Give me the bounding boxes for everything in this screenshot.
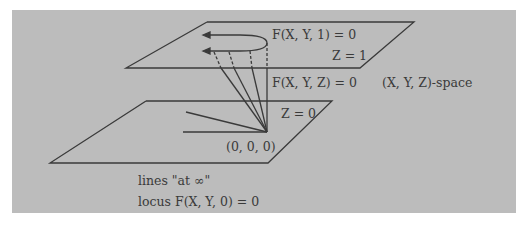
label-cone-surface: F(X, Y, Z) = 0	[272, 77, 357, 90]
label-lower-plane: Z = 0	[281, 108, 316, 121]
label-upper-curve: F(X, Y, 1) = 0	[272, 29, 356, 42]
dashed-rays	[214, 43, 267, 68]
curve-f-xy1	[208, 35, 267, 51]
cone-rays	[183, 68, 267, 132]
label-lines-at-infinity: lines "at ∞"	[138, 175, 210, 188]
arrow-left-icon	[203, 32, 210, 38]
projective-cone-diagram	[0, 0, 528, 228]
label-origin: (0, 0, 0)	[226, 141, 276, 154]
arrow-left-icon	[203, 48, 210, 54]
upper-plane	[126, 22, 414, 68]
label-space: (X, Y, Z)-space	[382, 77, 472, 90]
label-upper-plane: Z = 1	[332, 50, 367, 63]
label-locus: locus F(X, Y, 0) = 0	[138, 196, 259, 209]
